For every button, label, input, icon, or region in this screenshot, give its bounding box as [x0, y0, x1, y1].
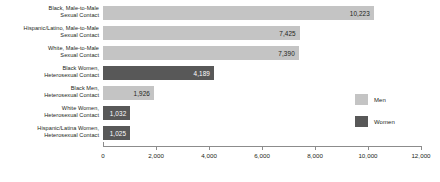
- bar[interactable]: 7,390: [103, 46, 299, 60]
- bar-value-label: 7,390: [278, 50, 295, 57]
- bar[interactable]: 1,025: [103, 126, 130, 140]
- bar[interactable]: 10,223: [103, 6, 374, 20]
- legend-label: Men: [374, 97, 386, 103]
- category-label: Black Men,Heterosexual Contact: [0, 85, 99, 98]
- category-label-line2: Sexual Contact: [0, 32, 99, 39]
- axis-tick: [103, 142, 104, 147]
- category-label-line1: Hispanic/Latino, Male-to-Male: [0, 25, 99, 32]
- category-label: White, Male-to-MaleSexual Contact: [0, 45, 99, 58]
- bar[interactable]: 1,032: [103, 106, 130, 120]
- category-label-line2: Sexual Contact: [0, 12, 99, 19]
- category-label-line2: Heterosexual Contact: [0, 112, 99, 119]
- axis-tick-label: 10,000: [358, 152, 377, 159]
- bar-value-label: 7,425: [279, 30, 296, 37]
- axis-tick: [209, 146, 210, 150]
- bar-value-label: 1,032: [110, 110, 127, 117]
- bar-chart: Black, Male-to-MaleSexual ContactHispani…: [0, 0, 440, 182]
- bar[interactable]: 4,189: [103, 66, 214, 80]
- axis-tick-label: 8,000: [307, 152, 323, 159]
- legend-item-women[interactable]: Women: [355, 116, 395, 127]
- axis-tick-label: 2,000: [148, 152, 164, 159]
- bar-value-label: 1,025: [110, 130, 127, 137]
- category-label-line2: Heterosexual Contact: [0, 92, 99, 99]
- category-label-line1: White, Male-to-Male: [0, 45, 99, 52]
- axis-tick-label: 4,000: [201, 152, 217, 159]
- category-label-line1: Black, Male-to-Male: [0, 5, 99, 12]
- axis-tick-label: 12,000: [411, 152, 430, 159]
- category-label: Black Women,Heterosexual Contact: [0, 65, 99, 78]
- axis-tick: [421, 146, 422, 150]
- bar-value-label: 10,223: [350, 10, 370, 17]
- category-label: Black, Male-to-MaleSexual Contact: [0, 5, 99, 18]
- bar[interactable]: 1,926: [103, 86, 154, 100]
- axis-tick: [368, 146, 369, 150]
- bar[interactable]: 7,425: [103, 26, 300, 40]
- legend-swatch-women: [355, 116, 368, 127]
- category-label-line1: Black Women,: [0, 65, 99, 72]
- bar-value-label: 1,926: [134, 90, 151, 97]
- category-label-line2: Sexual Contact: [0, 52, 99, 59]
- category-label-line1: White Women,: [0, 105, 99, 112]
- category-label-line2: Heterosexual Contact: [0, 72, 99, 79]
- legend-label: Women: [374, 119, 395, 125]
- axis-tick-label: 0: [101, 152, 105, 159]
- axis-tick: [315, 146, 316, 150]
- axis-tick: [262, 146, 263, 150]
- legend-swatch-men: [355, 94, 368, 105]
- category-label-line1: Black Men,: [0, 85, 99, 92]
- axis-tick: [156, 146, 157, 150]
- legend-item-men[interactable]: Men: [355, 94, 386, 105]
- axis-tick-label: 6,000: [254, 152, 270, 159]
- category-label: White Women,Heterosexual Contact: [0, 105, 99, 118]
- category-label-line2: Heterosexual Contact: [0, 132, 99, 139]
- category-label-line1: Hispanic/Latina Women,: [0, 125, 99, 132]
- category-label: Hispanic/Latina Women,Heterosexual Conta…: [0, 125, 99, 138]
- bar-value-label: 4,189: [194, 70, 211, 77]
- category-label: Hispanic/Latino, Male-to-MaleSexual Cont…: [0, 25, 99, 38]
